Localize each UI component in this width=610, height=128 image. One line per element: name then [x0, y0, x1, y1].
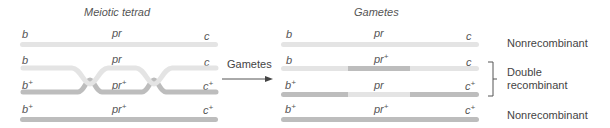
double-recombinant-line2: recombinant [507, 79, 568, 92]
double-recombinant-label: Double recombinant [507, 66, 568, 92]
double-recombinant-line1: Double [507, 66, 568, 79]
nonrecombinant-label: Nonrecombinant [507, 109, 588, 122]
